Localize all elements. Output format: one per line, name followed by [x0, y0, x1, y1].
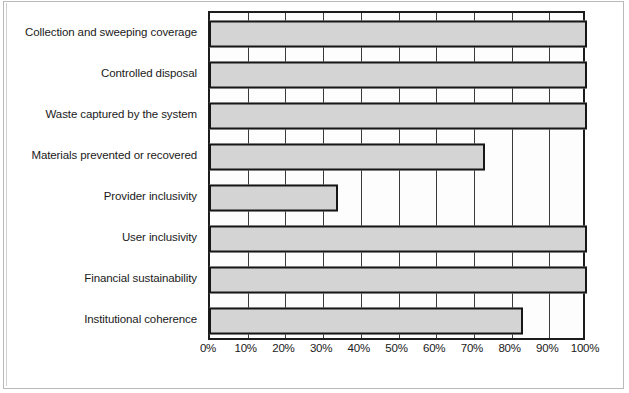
bar-row: [210, 260, 583, 301]
category-label: Provider inclusivity: [0, 176, 203, 217]
x-tick-label: 20%: [272, 342, 294, 354]
category-label: Waste captured by the system: [0, 93, 203, 134]
x-tick-label: 10%: [234, 342, 256, 354]
bar[interactable]: [209, 143, 485, 170]
bar[interactable]: [209, 20, 587, 47]
category-label: Financial sustainability: [0, 258, 203, 299]
bar-row: [210, 301, 583, 342]
bar[interactable]: [209, 308, 523, 335]
bar-row: [210, 95, 583, 136]
category-label: Institutional coherence: [0, 299, 203, 340]
bar-row: [210, 13, 583, 54]
bar[interactable]: [209, 226, 587, 253]
plot-area: [208, 11, 585, 340]
category-label: Materials prevented or recovered: [0, 134, 203, 175]
bar-rows: [210, 13, 583, 338]
category-axis-labels: Collection and sweeping coverageControll…: [0, 11, 203, 340]
x-tick-label: 100%: [571, 342, 600, 354]
bar-row: [210, 54, 583, 95]
horizontal-bar-chart: Collection and sweeping coverageControll…: [0, 0, 629, 393]
bar[interactable]: [209, 267, 587, 294]
bar-row: [210, 178, 583, 219]
category-label: Controlled disposal: [0, 52, 203, 93]
bar[interactable]: [209, 61, 587, 88]
category-label: User inclusivity: [0, 217, 203, 258]
bar[interactable]: [209, 102, 587, 129]
chart-page: Collection and sweeping coverageControll…: [0, 0, 629, 393]
x-tick-label: 60%: [423, 342, 445, 354]
x-tick-label: 70%: [461, 342, 483, 354]
bar-row: [210, 219, 583, 260]
x-tick-label: 50%: [385, 342, 407, 354]
bar-row: [210, 136, 583, 177]
x-axis-tick-labels: 0%10%20%30%40%50%60%70%80%90%100%: [208, 342, 585, 360]
bar[interactable]: [209, 185, 338, 212]
x-tick-label: 40%: [348, 342, 370, 354]
x-tick-label: 90%: [536, 342, 558, 354]
x-tick-label: 0%: [200, 342, 216, 354]
x-tick-label: 30%: [310, 342, 332, 354]
category-label: Collection and sweeping coverage: [0, 11, 203, 52]
x-tick-label: 80%: [498, 342, 520, 354]
